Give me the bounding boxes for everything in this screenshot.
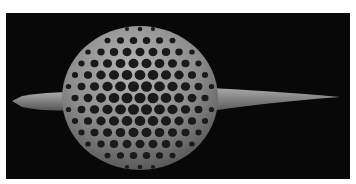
radiolarian-specimen: (function(){ const g=document.querySelec…: [0, 0, 356, 184]
right-spine: [205, 88, 340, 112]
